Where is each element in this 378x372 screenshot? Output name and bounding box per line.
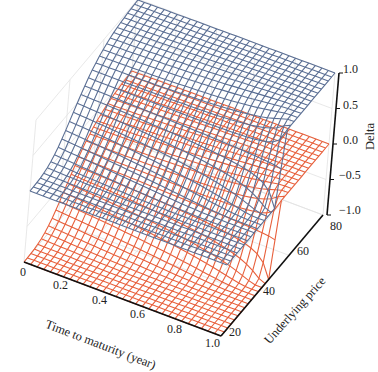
x-tick-3: 0.6 (130, 308, 145, 320)
x-tick-4: 0.8 (167, 323, 182, 335)
z-tick-4: 1.0 (343, 63, 358, 75)
y-tick-3: 80 (330, 220, 342, 232)
x-tick-0: 0 (20, 266, 26, 278)
y-tick-2: 60 (297, 245, 309, 257)
x-tick-5: 1.0 (205, 337, 220, 349)
y-tick-0: 20 (229, 326, 241, 338)
put-delta-surface (24, 71, 329, 336)
z-axis-title: Delta (364, 123, 377, 150)
z-tick-0: −1.0 (339, 204, 361, 216)
y-tick-1: 40 (263, 285, 275, 297)
x-tick-1: 0.2 (53, 279, 68, 291)
z-tick-3: 0.5 (343, 99, 358, 111)
z-tick-2: 0.0 (343, 134, 358, 146)
z-tick-1: −0.5 (339, 169, 361, 181)
x-tick-2: 0.4 (92, 294, 107, 306)
